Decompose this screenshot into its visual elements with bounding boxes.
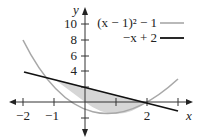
- y-tick-label: 8: [71, 32, 78, 47]
- x-axis-arrow-right: [186, 99, 193, 105]
- x-tick-label: 2: [144, 108, 151, 123]
- legend-parabola-label: (x − 1)² − 1: [97, 15, 157, 30]
- y-axis-label: y: [71, 2, 79, 17]
- y-tick-label: 10: [64, 16, 77, 31]
- x-axis-label: x: [185, 108, 192, 123]
- chart: −2 −1 2 10 8 6 4 y x (x − 1)² − 1 −x + 2: [0, 0, 202, 140]
- y-tick-label: 6: [71, 48, 78, 63]
- x-tick-label: −1: [45, 108, 59, 123]
- legend-line-label: −x + 2: [123, 30, 157, 45]
- x-tick-label: −2: [16, 108, 30, 123]
- y-tick-label: 4: [71, 63, 78, 78]
- y-axis-arrow-down: [82, 129, 88, 137]
- y-axis-arrow-up: [82, 7, 88, 15]
- x-axis-arrow-left: [9, 99, 16, 105]
